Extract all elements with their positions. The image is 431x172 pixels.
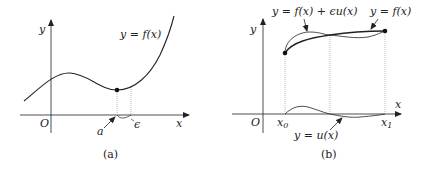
caption-b: (b) — [321, 148, 337, 161]
perturbed-curve-label: y = f(x) + ϵu(x) — [271, 5, 358, 18]
epsilon-label: ϵ — [134, 118, 140, 131]
x0-label: x0 — [277, 116, 288, 130]
epsilon-brace — [117, 115, 131, 118]
caption-a: (a) — [103, 148, 118, 161]
figure: y x O y = f(x) a ϵ (a) y x O x0 x1 y — [0, 0, 431, 172]
origin-label: O — [40, 117, 49, 130]
variation-curve-label: y = u(x) — [293, 129, 338, 142]
origin-label: O — [251, 116, 260, 129]
function-curve-label: y = f(x) — [369, 5, 411, 18]
curve-label: y = f(x) — [119, 28, 161, 41]
endpoint-x1 — [383, 29, 388, 34]
x-axis-label: x — [395, 98, 402, 111]
y-axis-label: y — [38, 23, 46, 36]
x-axis-label: x — [176, 117, 183, 130]
function-curve — [285, 31, 385, 53]
a-pointer-arrow — [104, 117, 115, 128]
variation-curve — [285, 106, 385, 117]
function-pointer-arrow — [371, 19, 378, 29]
panel-b: y x O x0 x1 y = f(x) + ϵu(x) y = f(x) y … — [232, 5, 411, 161]
panel-a: y x O y = f(x) a ϵ (a) — [20, 16, 189, 161]
minimum-point — [115, 88, 120, 93]
perturbed-pointer-arrow — [304, 19, 307, 31]
endpoint-x0 — [283, 51, 288, 56]
point-a-label: a — [97, 125, 104, 138]
x1-label: x1 — [381, 116, 392, 130]
y-axis-label: y — [249, 23, 257, 36]
